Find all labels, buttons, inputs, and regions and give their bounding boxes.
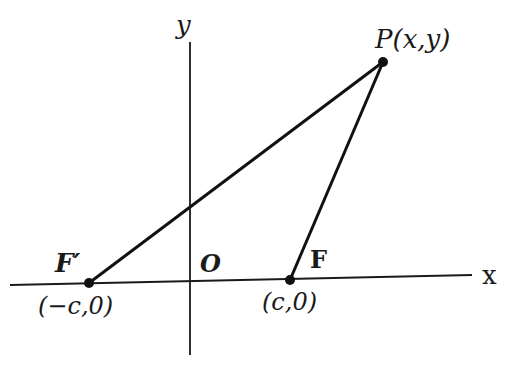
point-f-prime-coords: (−c,0)	[38, 292, 113, 320]
point-f	[285, 275, 295, 285]
point-p	[378, 57, 388, 67]
origin-label: O	[200, 249, 221, 278]
point-f-coords: (c,0)	[262, 288, 317, 316]
point-p-label: P(x,y)	[374, 24, 450, 54]
point-f-prime-label: F′	[54, 248, 80, 278]
point-f-label: F	[310, 245, 327, 274]
segment-fprime-p	[89, 62, 383, 283]
segment-f-p	[290, 62, 383, 280]
y-axis-label: y	[175, 10, 191, 40]
x-axis-label: x	[482, 260, 497, 290]
point-f-prime	[84, 278, 94, 288]
focal-triangle-diagram: y x O P(x,y) F′ (−c,0) F (c,0)	[0, 0, 506, 373]
